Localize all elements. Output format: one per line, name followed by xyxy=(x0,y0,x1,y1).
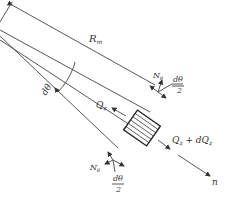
label-n-theta-top: Nθ xyxy=(152,71,163,81)
label-dtheta: dθ xyxy=(39,82,54,97)
n-theta-bottom-arrows xyxy=(105,152,124,172)
label-radius: Rm xyxy=(88,33,103,45)
label-qz-right: Qz + dQz xyxy=(172,135,213,146)
label-dtheta-half-top-num: dθ xyxy=(173,75,183,84)
label-n-theta-bottom: Nθ xyxy=(89,163,100,173)
qz-right-arrow xyxy=(158,140,170,149)
shell-element-diagram: Rm dθ Nθ dθ 2 Qz Qz + dQz Nθ dθ 2 n xyxy=(0,0,226,203)
label-dtheta-half-bottom-den: 2 xyxy=(115,185,121,194)
label-dtheta-half-bottom-num: dθ xyxy=(113,174,123,183)
label-normal-axis: n xyxy=(212,177,218,187)
label-qz-left: Qz xyxy=(96,100,107,111)
label-dtheta-half-top-den: 2 xyxy=(176,86,182,95)
shell-element xyxy=(119,107,166,150)
normal-axis-arrow xyxy=(178,155,210,176)
